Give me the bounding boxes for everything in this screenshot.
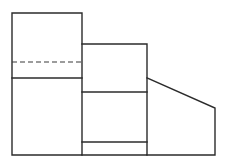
left-block-face — [12, 13, 82, 155]
orthographic-projection-drawing — [0, 0, 228, 166]
technical-drawing-canvas — [0, 0, 228, 166]
middle-block-face — [82, 44, 147, 155]
